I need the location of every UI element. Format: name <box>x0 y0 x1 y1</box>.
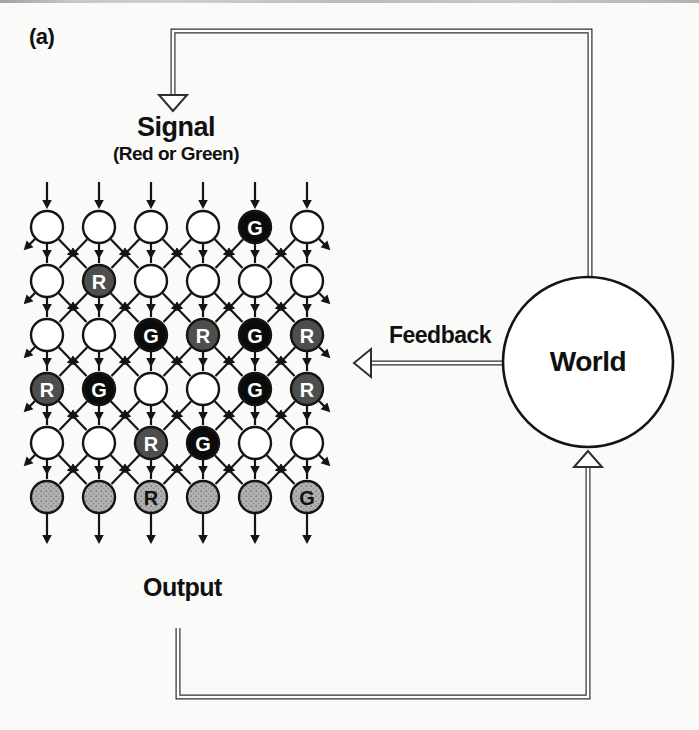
network-node <box>187 481 219 513</box>
signal-subtitle-label: (Red or Green) <box>113 143 239 165</box>
network-node <box>31 319 63 351</box>
network-node <box>135 211 167 243</box>
node-letter: G <box>247 325 263 347</box>
network-node <box>239 265 271 297</box>
network-node <box>83 211 115 243</box>
node-letter: G <box>195 433 211 455</box>
network-node <box>291 211 323 243</box>
node-letter: R <box>196 325 211 347</box>
output-label: Output <box>143 573 222 602</box>
network-node <box>31 211 63 243</box>
world-label: World <box>550 346 626 378</box>
network-node <box>135 265 167 297</box>
node-letter: R <box>40 379 55 401</box>
signal-title-label: Signal <box>137 112 215 143</box>
network-node <box>83 319 115 351</box>
node-letter: G <box>143 325 159 347</box>
network-node <box>83 481 115 513</box>
network-node <box>239 481 271 513</box>
network-node <box>31 481 63 513</box>
panel-label: (a) <box>29 24 54 50</box>
node-letter: R <box>144 487 159 509</box>
node-letter: G <box>299 487 315 509</box>
node-letter: R <box>92 271 107 293</box>
network-node <box>187 373 219 405</box>
network-node <box>31 265 63 297</box>
network-node <box>31 427 63 459</box>
figure-panel-a: GRGRGRRGGRRGRG (a) Signal (Red or Green)… <box>0 0 699 730</box>
node-letter: G <box>247 217 263 239</box>
feedback-label: Feedback <box>389 322 491 349</box>
node-letter: G <box>91 379 107 401</box>
network-node <box>291 427 323 459</box>
network-node <box>239 427 271 459</box>
network-node <box>187 211 219 243</box>
node-letter: R <box>144 433 159 455</box>
network-node <box>83 427 115 459</box>
node-letter: R <box>300 325 315 347</box>
network-node <box>135 373 167 405</box>
node-letter: R <box>300 379 315 401</box>
network-node <box>187 265 219 297</box>
node-letter: G <box>247 379 263 401</box>
network-node <box>291 265 323 297</box>
